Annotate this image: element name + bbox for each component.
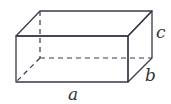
label-depth-b: b <box>145 65 156 85</box>
cuboid-diagram: a b c <box>0 0 171 104</box>
front-face <box>16 36 128 82</box>
hidden-edge-depth <box>16 58 40 82</box>
label-length-a: a <box>68 84 78 104</box>
label-height-c: c <box>156 22 166 42</box>
